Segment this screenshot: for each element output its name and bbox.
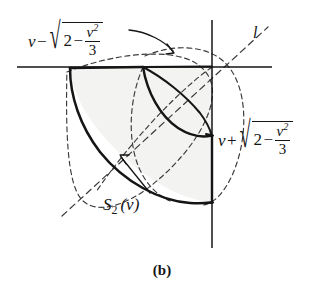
label-right-frac-num-exp: 2 [283,121,288,132]
radical-sign-left: √ [50,18,61,55]
label-s2-base: S [103,195,112,214]
label-line-l: l [253,25,257,41]
label-right-variable: v [218,131,226,150]
lens-tip-lower [204,203,213,204]
label-upper-endpoint: v+√2−v23 [218,123,293,160]
label-left-operator: − [36,32,49,51]
radical-sign-right: √ [240,117,251,154]
label-left-radicand-lead: 2 [63,31,72,50]
outer-top-edge [70,67,143,68]
figure-caption: (b) [0,262,324,279]
label-left-frac-num-exp: 2 [93,22,98,33]
label-right-radicand-op: − [262,130,275,149]
label-right-radicand: 2−v23 [252,121,293,158]
label-lower-endpoint: v−√2−v23 [28,24,103,61]
figure-panel-b: v−√2−v23 v+√2−v23 S2(v) l (b) [0,0,324,295]
label-left-radical: √2−v23 [48,24,103,61]
label-right-frac-den: 3 [275,140,291,158]
label-right-frac-num: v2 [275,122,291,140]
label-right-operator: + [226,131,239,150]
label-right-radicand-lead: 2 [253,130,262,149]
label-left-radicand: 2−v23 [62,22,103,59]
label-left-variable: v [28,32,36,51]
label-region-s2: S2(v) [103,196,139,217]
label-left-radicand-op: − [72,31,85,50]
label-left-frac-den: 3 [85,41,101,59]
label-s2-argument: (v) [117,195,139,214]
label-left-frac-num: v2 [85,23,101,41]
label-right-fraction: v23 [275,122,291,157]
label-right-radical: √2−v23 [238,123,293,160]
label-left-fraction: v23 [85,23,101,58]
callout-arrow-top [129,30,173,51]
inner-top-edge [143,67,212,68]
